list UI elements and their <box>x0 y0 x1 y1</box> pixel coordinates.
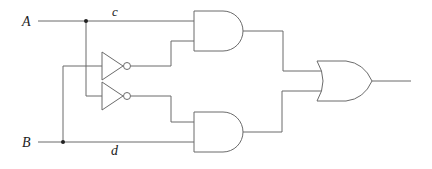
wire-b-branch <box>63 66 102 142</box>
input-label-a: A <box>21 14 31 29</box>
not-gate-lower <box>102 82 131 110</box>
junction-dot-a <box>84 19 88 23</box>
and-gate-lower <box>194 112 243 152</box>
wire-not-b <box>131 41 194 66</box>
wire-label-d: d <box>111 143 119 158</box>
inverter-bubble <box>124 93 131 100</box>
inverter-bubble <box>124 63 131 70</box>
logic-circuit-diagram: A B c d <box>0 0 432 169</box>
junction-dot-b <box>61 140 65 144</box>
wire-label-c: c <box>112 4 118 19</box>
wire-not-a <box>131 96 194 122</box>
input-label-b: B <box>22 135 31 150</box>
wire-and2-out <box>243 91 321 132</box>
or-gate <box>317 61 372 101</box>
and-gate-upper <box>194 11 243 51</box>
wire-a-branch <box>86 21 102 96</box>
wire-and1-out <box>243 31 321 71</box>
not-gate-upper <box>102 52 131 80</box>
